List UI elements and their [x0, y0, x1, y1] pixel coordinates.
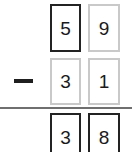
subtrahend-tens-digit-box[interactable]: 3	[50, 58, 81, 105]
equation-rule-line	[0, 107, 132, 109]
minuend-ones-digit-box[interactable]: 9	[88, 4, 120, 52]
difference-tens-digit-box[interactable]: 3	[50, 113, 81, 152]
minuend-tens-digit-box[interactable]: 5	[50, 4, 81, 52]
minus-sign-icon	[14, 79, 33, 83]
difference-ones-digit-box[interactable]: 8	[88, 113, 120, 152]
subtrahend-ones-digit-box[interactable]: 1	[88, 58, 120, 105]
subtraction-worksheet: 5 9 3 1 3 8	[0, 0, 132, 152]
